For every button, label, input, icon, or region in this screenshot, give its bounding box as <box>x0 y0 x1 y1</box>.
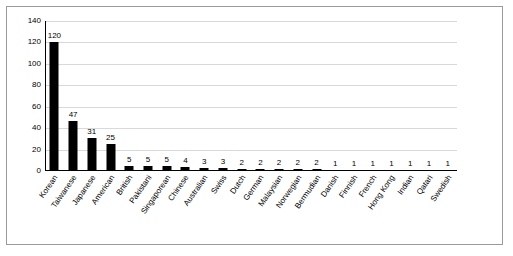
bar-value-label: 31 <box>87 128 96 136</box>
x-axis-tick-label: Indian <box>397 174 416 196</box>
bar-group: 120Korean <box>45 21 64 171</box>
bar-group: 3Swiss <box>214 21 233 171</box>
bar-group: 1Hong Kong <box>382 21 401 171</box>
x-axis-line <box>45 170 457 171</box>
bar-group: 1Indian <box>401 21 420 171</box>
bar-value-label: 1 <box>408 160 412 168</box>
bar-value-label: 5 <box>164 156 168 164</box>
bar-value-label: 120 <box>48 32 61 40</box>
y-axis-tick-label: 100 <box>28 60 41 68</box>
x-axis-tick-label: Finnish <box>338 174 359 200</box>
plot-area: 020406080100120140 120Korean47Taiwanese3… <box>45 21 457 171</box>
bar-group: 31Japanese <box>82 21 101 171</box>
bar-value-label: 4 <box>183 157 187 165</box>
bar <box>69 121 78 171</box>
bar-value-label: 5 <box>146 156 150 164</box>
y-axis-tick-label: 140 <box>28 17 41 25</box>
x-axis-tick-label: Swiss <box>210 174 229 196</box>
y-axis-tick-label: 20 <box>32 146 41 154</box>
bar-group: 1Swedish <box>438 21 457 171</box>
bar-group: 2German <box>251 21 270 171</box>
bar-value-label: 2 <box>239 159 243 167</box>
bar-group: 25American <box>101 21 120 171</box>
bar-group: 5British <box>120 21 139 171</box>
bar-value-label: 1 <box>427 160 431 168</box>
bar-group: 1Danish <box>326 21 345 171</box>
y-axis-tick-label: 60 <box>32 103 41 111</box>
bar-value-label: 1 <box>333 160 337 168</box>
y-axis-line <box>45 21 46 171</box>
bar-value-label: 2 <box>296 159 300 167</box>
bar-value-label: 1 <box>370 160 374 168</box>
bar-group: 4Chinese <box>176 21 195 171</box>
bar-value-label: 1 <box>352 160 356 168</box>
bar-group: 2Norwegian <box>288 21 307 171</box>
bar-group: 47Taiwanese <box>64 21 83 171</box>
y-axis-tick-label: 120 <box>28 38 41 46</box>
bar-value-label: 2 <box>314 159 318 167</box>
bar-value-label: 47 <box>69 111 78 119</box>
bar-value-label: 3 <box>202 158 206 166</box>
bar-value-label: 3 <box>221 158 225 166</box>
bar-value-label: 1 <box>445 160 449 168</box>
bar-group: 2Dutch <box>232 21 251 171</box>
bar-group: 5Pakistani <box>139 21 158 171</box>
bar-group: 1Finnish <box>345 21 364 171</box>
y-axis-tick-label: 80 <box>32 81 41 89</box>
bar-group: 1French <box>363 21 382 171</box>
bar-value-label: 5 <box>127 156 131 164</box>
chart-frame: 020406080100120140 120Korean47Taiwanese3… <box>6 6 503 245</box>
bar-group: 3Australian <box>195 21 214 171</box>
bar <box>50 42 59 171</box>
bar-group: 2Bermudian <box>307 21 326 171</box>
bar-value-label: 2 <box>277 159 281 167</box>
x-axis-tick-label-wrap: Swedish <box>447 149 471 178</box>
bar-group: 5Singaporean <box>157 21 176 171</box>
bar-value-label: 2 <box>258 159 262 167</box>
y-axis-tick-label: 0 <box>37 167 41 175</box>
y-axis-tick-label: 40 <box>32 124 41 132</box>
bar-group: 2Malaysian <box>270 21 289 171</box>
bar-value-label: 25 <box>106 134 115 142</box>
bar-group: 1Qatari <box>420 21 439 171</box>
bar-value-label: 1 <box>389 160 393 168</box>
